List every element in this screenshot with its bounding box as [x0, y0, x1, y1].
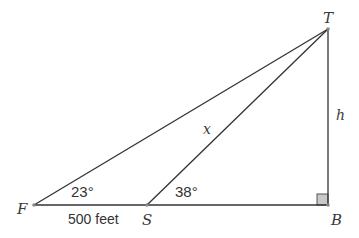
angle-label-S: 38° [175, 183, 198, 200]
vertex-label-T: T [323, 9, 334, 27]
segment-ST [147, 29, 328, 205]
segment-FT [34, 29, 328, 205]
triangle-diagram: F S B T 23° 38° 500 feet x h [0, 0, 359, 238]
point-T [326, 27, 330, 31]
variable-label-x: x [203, 121, 211, 137]
point-F [32, 203, 36, 207]
length-label-FS: 500 feet [68, 211, 119, 227]
vertex-label-B: B [330, 211, 342, 229]
angle-label-F: 23° [71, 183, 94, 200]
point-B [326, 203, 330, 207]
right-angle-marker [317, 194, 328, 205]
point-S [145, 203, 149, 207]
vertex-label-S: S [142, 211, 152, 229]
variable-label-h: h [336, 107, 345, 123]
vertex-label-F: F [16, 200, 28, 218]
